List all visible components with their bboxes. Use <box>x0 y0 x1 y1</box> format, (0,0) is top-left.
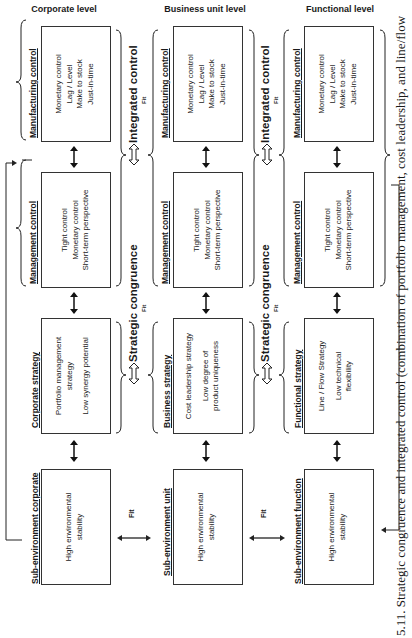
strategic-congruence-label-2: Strategic congruence <box>259 244 271 362</box>
fit-label: Fit <box>128 509 135 518</box>
figure-caption: 5.11. Strategic congruence and integrate… <box>393 16 409 636</box>
connector-lines <box>0 0 412 638</box>
integrated-control-label-2: Integrated control <box>259 45 271 143</box>
fit-label: Fit <box>260 509 267 518</box>
fit-label: Fit <box>273 97 279 104</box>
fit-label: Fit <box>141 305 147 312</box>
fit-label: Fit <box>273 305 279 312</box>
fit-label: Fit <box>141 97 147 104</box>
strategic-congruence-label-1: Strategic congruence <box>127 244 139 362</box>
integrated-control-label-1: Integrated control <box>127 45 139 143</box>
